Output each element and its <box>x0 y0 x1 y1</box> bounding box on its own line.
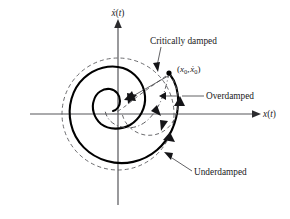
underdamped-label: Underdamped <box>194 167 247 177</box>
initial-condition-label: (x0, ẋ0) <box>177 64 200 75</box>
overdamped-path <box>122 73 178 135</box>
spiral-direction-arrows <box>163 96 185 142</box>
xdot-axis-arrowhead <box>114 19 122 28</box>
critically-damped-label: Critically damped <box>150 36 217 46</box>
annotation-underdamped: Underdamped <box>164 152 247 177</box>
x-axis-label: x(t) <box>262 109 276 120</box>
critically-damped-leader-arrow <box>153 62 160 72</box>
phase-plane-figure: (x0, ẋ0) Critically damped Overdamped Un… <box>0 0 290 219</box>
overdamped-group <box>115 73 178 135</box>
xdot-axis-label: ẋ(t) <box>111 8 125 19</box>
phase-plane-svg: (x0, ẋ0) Critically damped Overdamped Un… <box>0 0 290 219</box>
annotation-overdamped: Overdamped <box>159 91 254 101</box>
underdamped-leader <box>172 158 192 171</box>
underdamped-leader-arrow <box>164 152 173 160</box>
overdamped-direction-arrow-lower <box>160 120 168 131</box>
x-axis-arrowhead <box>252 110 261 118</box>
annotation-critically-damped: Critically damped <box>124 36 217 101</box>
spiral-direction-arrow-right <box>174 96 185 106</box>
overdamped-label: Overdamped <box>206 91 254 101</box>
overdamped-leader-arrow <box>159 92 166 100</box>
initial-condition-marker <box>166 70 171 75</box>
axes-group <box>30 19 261 205</box>
initial-point-group: (x0, ẋ0) <box>166 64 200 76</box>
